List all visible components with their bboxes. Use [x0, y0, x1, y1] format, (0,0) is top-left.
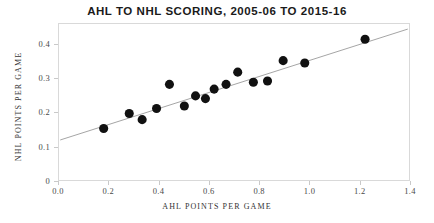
x-axis-label: AHL POINTS PER GAME [0, 202, 434, 211]
x-tick-label: 0.2 [103, 186, 115, 196]
y-tick-mark [54, 112, 58, 113]
y-tick-label: 0.4 [14, 39, 50, 49]
x-tick-label: 0.8 [253, 186, 265, 196]
data-point[interactable] [152, 104, 161, 113]
chart-title: AHL TO NHL SCORING, 2005-06 TO 2015-16 [0, 5, 434, 17]
data-point[interactable] [180, 102, 189, 111]
data-point[interactable] [99, 124, 108, 133]
data-point[interactable] [361, 35, 370, 44]
x-tick-mark [209, 181, 210, 185]
y-tick-label: 0.1 [14, 142, 50, 152]
data-point[interactable] [279, 56, 288, 65]
x-tick-label: 0.0 [52, 186, 64, 196]
data-point[interactable] [249, 78, 258, 87]
y-tick-label: 0.3 [14, 73, 50, 83]
x-tick-label: 1.2 [354, 186, 366, 196]
x-tick-label: 1.4 [404, 186, 416, 196]
trend-line [60, 29, 408, 140]
data-point[interactable] [233, 68, 242, 77]
plot-area [59, 24, 409, 180]
x-tick-mark [58, 181, 59, 185]
data-point[interactable] [210, 85, 219, 94]
data-point[interactable] [125, 109, 134, 118]
data-point[interactable] [263, 76, 272, 85]
y-tick-mark [54, 147, 58, 148]
data-point[interactable] [138, 115, 147, 124]
data-point[interactable] [222, 80, 231, 89]
data-point[interactable] [165, 80, 174, 89]
y-tick-label: 0 [14, 176, 50, 186]
x-tick-mark [360, 181, 361, 185]
x-tick-label: 0.4 [153, 186, 165, 196]
x-tick-mark [259, 181, 260, 185]
data-point[interactable] [300, 58, 309, 67]
y-tick-mark [54, 78, 58, 79]
y-tick-mark [54, 181, 58, 182]
x-tick-label: 1.0 [304, 186, 316, 196]
data-point[interactable] [191, 91, 200, 100]
x-tick-mark [159, 181, 160, 185]
x-tick-mark [108, 181, 109, 185]
x-tick-label: 0.6 [203, 186, 215, 196]
y-tick-label: 0.2 [14, 107, 50, 117]
data-point[interactable] [201, 94, 210, 103]
scatter-chart: AHL TO NHL SCORING, 2005-06 TO 2015-16 A… [0, 0, 434, 223]
x-tick-mark [309, 181, 310, 185]
x-tick-mark [410, 181, 411, 185]
plot-frame [58, 23, 410, 181]
y-tick-mark [54, 44, 58, 45]
